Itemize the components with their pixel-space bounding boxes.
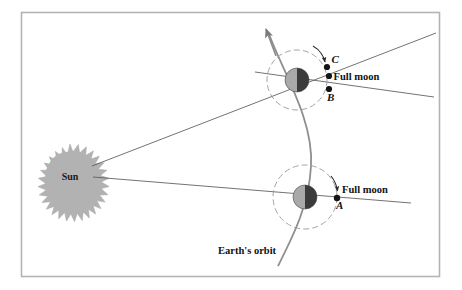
- astronomy-diagram: Sun C Full moon: [0, 0, 462, 290]
- label-earths-orbit: Earth's orbit: [218, 245, 277, 256]
- label-full-moon-lower: Full moon: [342, 184, 388, 195]
- label-c: C: [332, 53, 340, 65]
- label-full-moon-upper: Full moon: [334, 71, 380, 82]
- moon-point-c: [324, 64, 330, 70]
- label-b: B: [326, 91, 334, 103]
- label-a: A: [335, 199, 343, 211]
- figure-root: Sun C Full moon: [0, 0, 462, 290]
- sun-label: Sun: [62, 171, 79, 182]
- figure-frame: [22, 13, 440, 277]
- moon-point-full-upper: [326, 73, 332, 79]
